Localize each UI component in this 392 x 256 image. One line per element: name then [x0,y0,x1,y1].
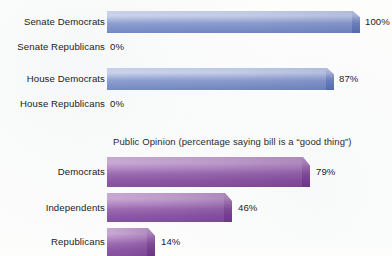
bar-row-label: Senate Democrats [24,16,105,27]
bar-value-label: 79% [316,166,336,177]
bar-fill [107,193,232,222]
bar-value-label: 87% [339,73,359,84]
bar-row: Republicans 14% [0,228,392,256]
bar-row-label: Democrats [58,166,105,177]
bar-fill [107,157,310,187]
bar-value-label: 14% [161,236,181,247]
bar-tip-bevel [352,11,360,33]
bar-track [107,228,155,256]
bar-track [107,157,310,187]
bar-fill [107,228,155,256]
bar-row: House Republicans 0% [0,97,392,111]
bar-fill [107,68,334,90]
bar-fill [107,11,360,33]
bar-row: Senate Republicans 0% [0,40,392,54]
bar-track [107,68,334,90]
bar-track [107,11,360,33]
bar-tip-bevel [224,193,232,222]
bar-value-label: 46% [238,202,258,213]
bar-tip-bevel [326,68,334,90]
bar-row-label: House Republicans [20,98,105,109]
bar-row: Senate Democrats 100% [0,11,392,33]
chart-public-opinion: Public Opinion (percentage saying bill i… [0,124,392,248]
chart-legislative-support: Senate Democrats 100% Senate Republicans… [0,0,392,124]
bar-tip-bevel [147,228,155,256]
bar-row-label: Senate Republicans [17,41,105,52]
bar-value-label: 0% [110,41,124,52]
bar-value-label: 100% [365,16,390,27]
bar-row-label: House Democrats [27,73,105,84]
bar-tip-bevel [302,157,310,187]
bar-track [107,193,232,222]
bar-row: House Democrats 87% [0,68,392,90]
bar-row: Democrats 79% [0,157,392,187]
bottom-chart-title: Public Opinion (percentage saying bill i… [113,136,352,147]
bar-row: Independents 46% [0,193,392,222]
bar-value-label: 0% [110,98,124,109]
bar-row-label: Independents [46,202,105,213]
bar-row-label: Republicans [51,236,105,247]
